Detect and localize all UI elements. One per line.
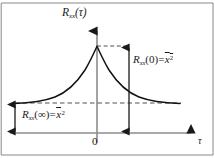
asymptote-value-argument: (∞) bbox=[34, 108, 49, 120]
y-axis-label: Rxx(τ) bbox=[62, 7, 87, 20]
peak-value-overline-group: x2 bbox=[164, 54, 173, 65]
peak-value-exponent: 2 bbox=[170, 54, 173, 61]
asymptote-value-exponent: 2 bbox=[61, 109, 64, 116]
y-axis-label-argument: (τ) bbox=[75, 6, 87, 18]
asymptote-value-annotation: Rxx(∞)=x2 bbox=[22, 109, 65, 121]
frame-rules bbox=[1, 3, 213, 155]
peak-value-symbol: R bbox=[133, 53, 140, 65]
asymptote-value-symbol: R bbox=[22, 108, 29, 120]
y-axis-label-symbol: R bbox=[62, 6, 69, 18]
origin-label: 0 bbox=[92, 136, 98, 147]
x-axis-label: τ bbox=[198, 136, 202, 146]
figure-canvas bbox=[0, 0, 215, 158]
peak-value-annotation: Rxx(0)=x2 bbox=[133, 54, 174, 66]
peak-value-argument: (0) bbox=[145, 53, 158, 65]
autocorrelation-figure: Rxx(τ) τ 0 Rxx(0)=x2 Rxx(∞)=x2 bbox=[0, 0, 215, 158]
